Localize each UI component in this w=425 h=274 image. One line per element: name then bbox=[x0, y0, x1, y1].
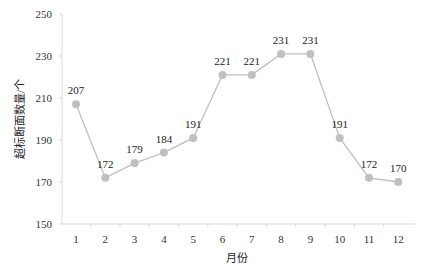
series-line bbox=[76, 54, 398, 182]
axes: 150170190210230250123456789101112 bbox=[36, 8, 416, 245]
data-point bbox=[394, 178, 402, 186]
x-tick-label: 3 bbox=[132, 233, 138, 245]
y-tick-label: 170 bbox=[36, 176, 53, 188]
data-point bbox=[277, 50, 285, 58]
x-tick-label: 9 bbox=[308, 233, 314, 245]
data-label: 179 bbox=[126, 143, 143, 155]
data-point bbox=[131, 159, 139, 167]
data-series: 207172179184191221221231231191172170 bbox=[68, 34, 407, 186]
x-tick-label: 6 bbox=[220, 233, 226, 245]
line-chart: 150170190210230250123456789101112 207172… bbox=[0, 0, 425, 274]
y-axis-title: 超标断面数量/个 bbox=[13, 79, 26, 159]
y-tick-label: 230 bbox=[36, 50, 53, 62]
data-point bbox=[336, 134, 344, 142]
data-label: 221 bbox=[214, 55, 231, 67]
x-tick-label: 4 bbox=[161, 233, 167, 245]
y-tick-label: 210 bbox=[36, 92, 53, 104]
data-point bbox=[248, 71, 256, 79]
data-point bbox=[160, 149, 168, 157]
x-tick-label: 5 bbox=[190, 233, 196, 245]
y-tick-label: 150 bbox=[36, 218, 53, 230]
data-label: 172 bbox=[97, 158, 114, 170]
data-point bbox=[219, 71, 227, 79]
data-point bbox=[72, 100, 80, 108]
data-point bbox=[101, 174, 109, 182]
data-label: 172 bbox=[361, 158, 378, 170]
x-axis-title: 月份 bbox=[226, 252, 248, 264]
data-point bbox=[306, 50, 314, 58]
x-tick-label: 11 bbox=[364, 233, 375, 245]
data-label: 170 bbox=[390, 162, 407, 174]
data-point bbox=[365, 174, 373, 182]
y-tick-label: 190 bbox=[36, 134, 53, 146]
data-label: 231 bbox=[302, 34, 319, 46]
x-tick-label: 12 bbox=[393, 233, 404, 245]
x-tick-label: 8 bbox=[278, 233, 284, 245]
data-label: 231 bbox=[273, 34, 290, 46]
data-label: 191 bbox=[331, 118, 348, 130]
data-label: 207 bbox=[68, 84, 85, 96]
x-tick-label: 2 bbox=[103, 233, 109, 245]
x-tick-label: 10 bbox=[334, 233, 346, 245]
data-label: 221 bbox=[244, 55, 261, 67]
data-point bbox=[189, 134, 197, 142]
x-tick-label: 7 bbox=[249, 233, 255, 245]
data-label: 184 bbox=[156, 133, 173, 145]
x-tick-label: 1 bbox=[73, 233, 79, 245]
data-label: 191 bbox=[185, 118, 202, 130]
y-tick-label: 250 bbox=[36, 8, 53, 20]
